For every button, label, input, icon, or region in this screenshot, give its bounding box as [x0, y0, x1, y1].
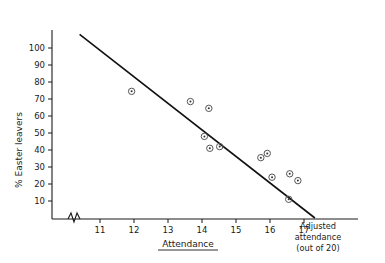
data-points: [128, 88, 301, 202]
y-tick-label: 90: [34, 60, 45, 70]
data-point: [207, 145, 213, 151]
data-point-centre: [131, 90, 133, 92]
x-tick-label: 15: [231, 225, 242, 235]
data-point: [287, 171, 293, 177]
y-tick-label: 100: [29, 43, 45, 53]
x-axis-title: Attendance: [162, 239, 214, 249]
data-point-centre: [288, 198, 290, 200]
regression-line: [80, 34, 315, 218]
x-tick-label: 11: [95, 225, 106, 235]
data-point: [128, 88, 134, 94]
x-tick-label: 14: [197, 225, 208, 235]
axes: [52, 30, 358, 222]
y-tick-label: 70: [34, 94, 45, 104]
x-tick-label: 12: [129, 225, 140, 235]
axis-break-icon: [68, 213, 80, 222]
y-tick-label: 30: [34, 162, 45, 172]
data-point-centre: [271, 176, 273, 178]
data-point-centre: [289, 173, 291, 175]
data-point: [187, 98, 193, 104]
x-axis-ticks: 11121314151617: [95, 219, 310, 235]
data-point-centre: [266, 152, 268, 154]
y-tick-label: 80: [34, 77, 45, 87]
y-axis-ticks: 102030405060708090100: [29, 43, 52, 206]
x-tick-label: 13: [163, 225, 174, 235]
y-tick-label: 20: [34, 179, 45, 189]
y-tick-label: 10: [34, 196, 45, 206]
data-point-centre: [208, 107, 210, 109]
data-point: [295, 177, 301, 183]
data-point-centre: [209, 147, 211, 149]
x-tick-label: 16: [265, 225, 276, 235]
data-point-centre: [189, 101, 191, 103]
y-tick-label: 50: [34, 128, 45, 138]
data-point: [201, 133, 207, 139]
data-point: [269, 174, 275, 180]
data-point-centre: [203, 135, 205, 137]
corner-label-line-1: attendance: [295, 232, 342, 242]
corner-label-line-2: (out of 20): [296, 243, 339, 253]
data-point: [258, 154, 264, 160]
data-point-centre: [219, 146, 221, 148]
data-point-centre: [297, 180, 299, 182]
data-point: [206, 105, 212, 111]
adjusted-attendance-label: Adjusted attendance (out of 20): [295, 221, 342, 253]
y-tick-label: 40: [34, 145, 45, 155]
scatter-chart: 102030405060708090100 11121314151617 % E…: [0, 0, 385, 263]
y-axis-title: % Easter leavers: [14, 112, 24, 188]
y-tick-label: 60: [34, 111, 45, 121]
data-point: [264, 150, 270, 156]
corner-label-line-0: Adjusted: [300, 221, 336, 231]
chart-canvas: 102030405060708090100 11121314151617 % E…: [0, 0, 385, 263]
data-point-centre: [260, 157, 262, 159]
